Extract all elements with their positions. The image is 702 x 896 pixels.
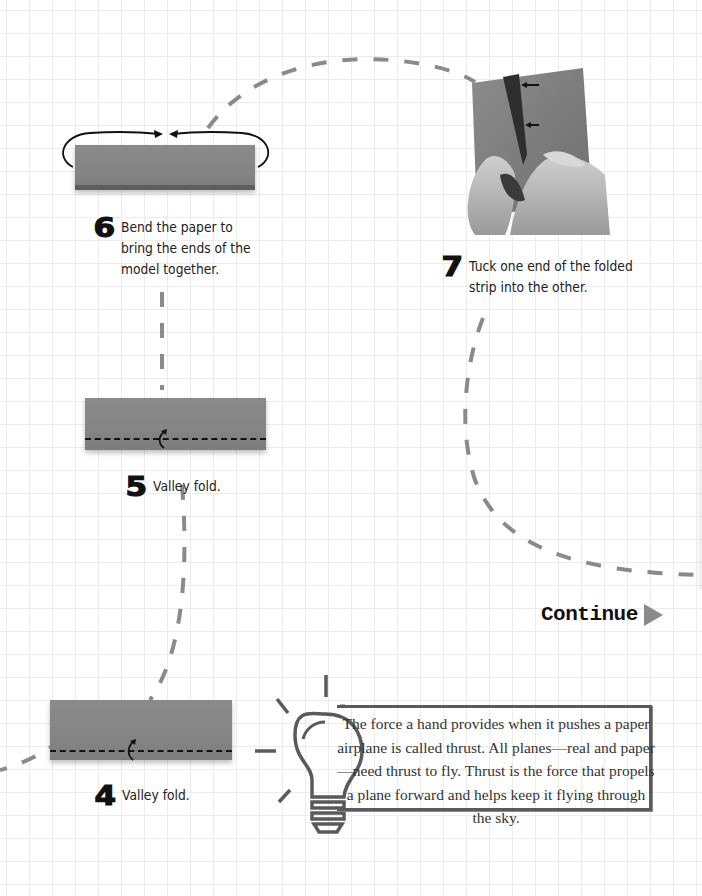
valley-fold-line [85,438,266,440]
step-number: 7 [442,256,464,278]
step-number: 6 [94,217,116,239]
step-instruction: Tuck one end of the folded strip into th… [469,256,633,298]
play-triangle-icon [644,604,663,626]
step-number: 4 [95,785,117,807]
valley-fold-line [50,750,232,752]
hands-tucking-photo [455,65,610,235]
bend-arrowhead-left [154,130,163,138]
step-7: 7 Tuck one end of the folded strip into … [443,256,655,298]
step-instruction: Bend the paper to bring the ends of the … [121,217,251,280]
fold-arrow-icon [124,738,140,762]
bend-arrowhead-right [169,130,178,138]
step-instruction: Valley fold. [153,476,221,497]
paper-strip-step-6 [75,145,255,190]
paper-strip-step-4 [50,700,232,760]
step-4: 4 Valley fold. [96,785,199,807]
path-7-to-continue [465,318,702,575]
path-6-to-7 [208,59,475,128]
fold-arrow-icon [155,428,171,450]
paper-strip-step-5 [85,398,266,450]
page-edge-shadow [696,360,702,590]
step-5: 5 Valley fold. [127,476,230,498]
step-6: 6 Bend the paper to bring the ends of th… [95,217,268,280]
fact-box-text: The force a hand provides when it pushes… [336,712,656,830]
continue-link[interactable]: Continue [541,603,663,626]
step-number: 5 [126,476,148,498]
step-instruction: Valley fold. [122,785,190,806]
continue-label: Continue [541,603,638,626]
path-5-to-4 [150,485,184,700]
